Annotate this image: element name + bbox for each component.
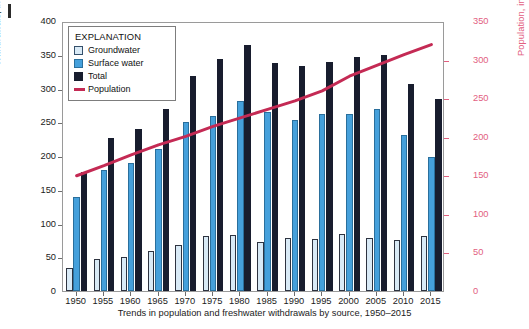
crop-mark [8, 4, 11, 18]
legend-title: EXPLANATION [75, 31, 170, 42]
left-tick-label-300: 300 [22, 84, 56, 94]
right-tick-label-150: 150 [473, 170, 507, 180]
left-tick-label-200: 200 [22, 151, 56, 161]
right-tick-label-0: 0 [473, 286, 507, 296]
legend-label: Surface water [88, 58, 144, 68]
square-swatch-blue-icon [74, 59, 83, 68]
legend-item-total: Total [74, 70, 170, 82]
right-tick-label-200: 200 [473, 132, 507, 142]
legend-item-surface-water: Surface water [74, 57, 170, 69]
left-tick-label-50: 50 [22, 252, 56, 262]
right-tick-label-50: 50 [473, 247, 507, 257]
right-tick-label-300: 300 [473, 55, 507, 65]
legend-item-population: Population [74, 83, 170, 95]
legend-label: Total [88, 71, 107, 81]
left-tick-label-350: 350 [22, 50, 56, 60]
legend-items: GroundwaterSurface waterTotalPopulation [74, 44, 170, 95]
legend: EXPLANATION GroundwaterSurface waterTota… [68, 26, 176, 101]
left-tick-label-100: 100 [22, 219, 56, 229]
right-tick-label-100: 100 [473, 209, 507, 219]
right-tick-label-250: 250 [473, 93, 507, 103]
square-swatch-black-icon [74, 72, 83, 81]
left-axis-title: Withdrawals, in billion gallons per day [0, 0, 2, 96]
line-swatch-red-icon [74, 88, 85, 91]
right-tick-label-350: 350 [473, 16, 507, 26]
left-tick-label-0: 0 [22, 286, 56, 296]
figure-root: Withdrawals, in billion gallons per day … [0, 0, 529, 329]
legend-label: Population [88, 84, 131, 94]
left-tick-label-250: 250 [22, 117, 56, 127]
left-tick-label-400: 400 [22, 16, 56, 26]
left-tick-label-150: 150 [22, 185, 56, 195]
legend-item-groundwater: Groundwater [74, 44, 170, 56]
figure-caption: Trends in population and freshwater with… [0, 308, 529, 318]
square-swatch-lightblue-icon [74, 46, 83, 55]
right-axis-title: Population, in millions [516, 0, 526, 100]
legend-label: Groundwater [88, 45, 140, 55]
x-tick-label-2015: 2015 [410, 296, 450, 306]
